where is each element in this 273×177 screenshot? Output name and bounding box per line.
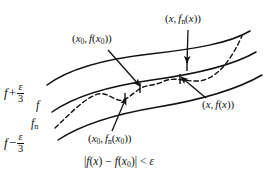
label-point-x0-fn-x0: (x0,fn(x0))	[88, 133, 131, 145]
label-upper-eps: ε	[17, 82, 24, 93]
label-lower-f: f	[4, 135, 8, 150]
p2-comma: ,	[174, 12, 177, 24]
diagram-svg	[0, 0, 273, 177]
label-fn-sub: n	[34, 122, 38, 131]
ineq-minus: −	[105, 155, 112, 167]
ineq-eps: ε	[150, 155, 155, 167]
label-point-x-f-x: (x,f(x))	[202, 99, 234, 110]
label-f-plus-eps-over-3: f+ ε 3	[4, 82, 24, 104]
p3-comma: ,	[211, 98, 214, 110]
leader-x-fn-x	[187, 30, 188, 63]
label-point-x-fn-x: (x,fn(x))	[165, 13, 201, 25]
label-fn: fn	[31, 117, 38, 131]
p1-close: )	[108, 32, 112, 44]
p4-comma: ,	[100, 132, 103, 144]
label-f: f	[36, 99, 39, 111]
label-point-x0-f-x0: (x0,f(x0))	[72, 33, 112, 45]
ineq-bar2: |	[135, 155, 137, 167]
label-lower-den: 3	[17, 143, 24, 155]
curve-fn-dashed	[55, 36, 242, 128]
label-inequality: |f(x)−f(x0)|<ε	[84, 156, 154, 169]
ineq-c1: )	[98, 155, 102, 167]
label-f-minus-eps-over-3: f− ε 3	[4, 132, 24, 154]
p2-close: )	[197, 12, 201, 24]
ineq-lt: <	[140, 155, 147, 167]
p1-comma: ,	[84, 32, 87, 44]
label-upper-den: 3	[17, 93, 24, 105]
label-upper-f: f	[4, 85, 8, 100]
p4-close: )	[128, 132, 132, 144]
label-upper-plus: +	[9, 85, 16, 100]
figure-canvas: f+ ε 3 f fn f− ε 3 (x0,f(x0)) (x,fn(x)) …	[0, 0, 273, 177]
label-lower-minus: −	[9, 135, 16, 150]
p3-close: )	[231, 98, 235, 110]
label-lower-eps: ε	[17, 132, 24, 143]
